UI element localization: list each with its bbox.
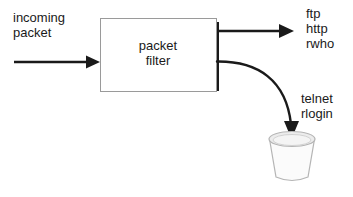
blocked-services-label: telnet rlogin	[301, 91, 333, 121]
incoming-packet-label: incoming packet	[13, 10, 65, 40]
packet-filter-label: packet filter	[108, 38, 208, 68]
wastebasket-icon	[269, 132, 315, 181]
incoming-packet-arrow	[14, 56, 100, 69]
blocked-traffic-arrow	[217, 61, 299, 139]
packet-filter-diagram: incoming packet packet filter ftp http r…	[0, 0, 353, 197]
allowed-traffic-arrow	[217, 24, 294, 38]
allowed-services-label: ftp http rwho	[306, 6, 334, 51]
